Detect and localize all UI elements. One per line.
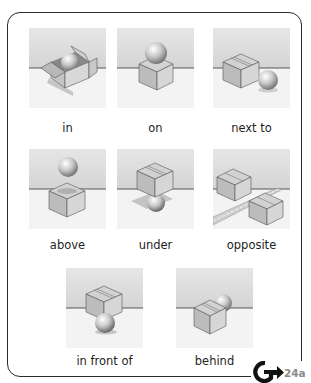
preposition-in: in — [29, 28, 106, 108]
label-on: on — [107, 121, 204, 135]
preposition-behind: behind — [176, 268, 253, 348]
ball-in-front-of-box-icon — [66, 268, 143, 348]
label-in: in — [19, 121, 116, 135]
label-next-to: next to — [203, 121, 300, 135]
label-behind: behind — [166, 354, 263, 368]
ball-under-box-icon — [117, 149, 194, 229]
ball-next-to-box-icon — [213, 28, 290, 108]
illustration-above — [29, 149, 106, 229]
preposition-opposite: opposite — [213, 149, 290, 229]
illustration-behind — [176, 268, 253, 348]
preposition-on: on — [117, 28, 194, 108]
preposition-in-front-of: in front of — [66, 268, 143, 348]
ball-behind-box-icon — [176, 268, 253, 348]
illustration-in — [29, 28, 106, 108]
illustration-on — [117, 28, 194, 108]
box-with-ball-inside-icon — [29, 28, 106, 108]
illustration-in-front-of — [66, 268, 143, 348]
label-in-front-of: in front of — [56, 354, 153, 368]
ball-on-box-icon — [117, 28, 194, 108]
illustration-next-to — [213, 28, 290, 108]
ball-above-box-icon — [29, 149, 106, 229]
label-above: above — [19, 238, 116, 252]
preposition-above: above — [29, 149, 106, 229]
preposition-next-to: next to — [213, 28, 290, 108]
label-opposite: opposite — [203, 238, 300, 252]
boxes-opposite-road-icon — [213, 149, 290, 229]
illustration-opposite — [213, 149, 290, 229]
grammar-arrow-icon — [251, 361, 285, 383]
label-under: under — [107, 238, 204, 252]
illustration-under — [117, 149, 194, 229]
preposition-under: under — [117, 149, 194, 229]
cross-reference-target[interactable]: 24a — [284, 367, 306, 379]
